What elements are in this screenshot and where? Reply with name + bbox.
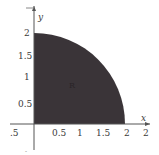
region-label: R: [69, 81, 76, 90]
y-tick-label: 1: [24, 72, 30, 82]
x-tick-label: .5: [10, 128, 19, 138]
quarter-disk-plot: x y .5 0.5 1 1.5 2 2 0.5 1 1.5 2 R -: [0, 0, 159, 155]
x-axis-label: x: [141, 113, 146, 123]
y-tick-label: 1.5: [18, 51, 33, 61]
y-axis-label: y: [37, 12, 44, 22]
region-r: [34, 33, 125, 124]
y-tick-label: 2: [24, 28, 30, 38]
x-tick-label: 2: [124, 128, 130, 138]
x-tick-label: 1.5: [96, 128, 111, 138]
x-tick-label: 2: [143, 128, 149, 138]
y-tick-label: 0.5: [18, 99, 33, 109]
x-tick-label: 0.5: [52, 128, 67, 138]
x-tick-label: 1: [77, 128, 83, 138]
origin-mark: -: [25, 147, 27, 154]
